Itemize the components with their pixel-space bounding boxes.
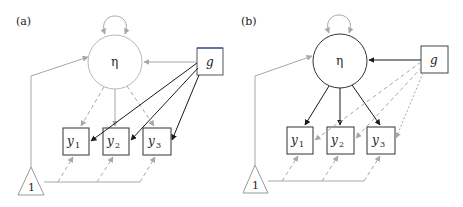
panel-a-label: (a) xyxy=(16,15,31,28)
latent-eta-label: η xyxy=(111,55,118,69)
sem-diagram-figure: (a) η g y 1 y 2 y 3 1 xyxy=(0,0,463,207)
indicator-y1-sub-b: 1 xyxy=(299,140,304,149)
indicator-y3-label: y xyxy=(147,134,155,148)
path-const-to-y1-b xyxy=(282,156,298,181)
path-g-to-y3-b xyxy=(396,73,423,138)
covariate-g-label-b: g xyxy=(430,53,438,67)
indicator-y1-label-b: y xyxy=(290,133,298,147)
eta-variance-loop xyxy=(104,16,127,34)
covariate-g-label: g xyxy=(206,55,214,69)
path-const-to-y2 xyxy=(97,157,113,182)
indicator-y2-label-b: y xyxy=(330,133,338,147)
indicator-y2-sub-b: 2 xyxy=(339,140,344,149)
constant-label: 1 xyxy=(28,181,35,194)
path-g-to-y3 xyxy=(172,75,199,140)
eta-variance-loop-b xyxy=(328,15,351,33)
path-const-to-y3-b xyxy=(364,156,380,181)
panel-b-label: (b) xyxy=(241,15,257,28)
indicator-y3-sub: 3 xyxy=(156,141,161,150)
indicator-y1-label: y xyxy=(66,134,74,148)
path-const-to-y3 xyxy=(140,157,155,182)
path-const-to-y2-b xyxy=(322,156,338,181)
latent-eta-label-b: η xyxy=(336,54,343,68)
path-const-to-y1 xyxy=(58,157,73,182)
path-eta-to-y3-b xyxy=(352,85,380,125)
path-eta-to-y1-b xyxy=(305,86,329,125)
diagram-svg: (a) η g y 1 y 2 y 3 1 xyxy=(0,0,463,207)
indicator-y2-label: y xyxy=(106,134,114,148)
constant-label-b: 1 xyxy=(252,179,259,192)
panel-a: (a) η g y 1 y 2 y 3 1 xyxy=(16,15,223,195)
indicator-y3-sub-b: 3 xyxy=(380,140,385,149)
path-eta-to-y1 xyxy=(81,87,104,126)
panel-b: (b) η g y 1 y 2 y 3 1 xyxy=(241,15,448,193)
indicator-y2-sub: 2 xyxy=(115,141,120,150)
indicator-y1-sub: 1 xyxy=(75,141,80,150)
indicator-y3-label-b: y xyxy=(371,133,379,147)
